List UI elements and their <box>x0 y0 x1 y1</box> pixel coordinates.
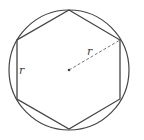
side-label: r <box>19 64 25 77</box>
radius-line <box>69 40 120 70</box>
hexagon-in-circle-diagram: r r <box>0 0 144 140</box>
radius-label: r <box>87 45 93 58</box>
center-point <box>68 69 71 72</box>
